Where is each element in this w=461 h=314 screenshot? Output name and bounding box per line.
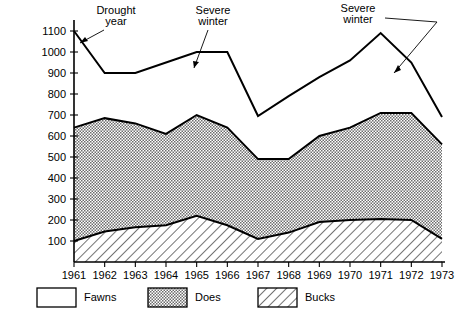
annotation-drought-year-line2: year <box>105 15 127 27</box>
y-axis-tick-labels: 10020030040050060070080090010001100 <box>42 25 66 247</box>
legend-label-does: Does <box>195 291 221 303</box>
y-axis-tick-label: 700 <box>48 109 66 121</box>
y-axis-tick-label: 300 <box>48 193 66 205</box>
legend-label-fawns: Fawns <box>84 291 117 303</box>
x-axis-tick-label: 1970 <box>338 269 362 281</box>
legend: Fawns Does Bucks <box>37 288 335 307</box>
legend-item-bucks[interactable]: Bucks <box>258 288 335 307</box>
stacked-area-chart: 10020030040050060070080090010001100 1961… <box>0 0 461 314</box>
legend-item-fawns[interactable]: Fawns <box>37 288 117 307</box>
annotation-severe-winter-1966-line2: winter <box>197 15 228 27</box>
y-axis-tick-label: 1000 <box>42 46 66 58</box>
y-axis-tick-label: 500 <box>48 151 66 163</box>
x-axis-tick-labels: 1961196219631964196519661967196819691970… <box>62 269 454 281</box>
y-axis-tick-label: 600 <box>48 130 66 142</box>
x-axis-tick-label: 1961 <box>62 269 86 281</box>
x-axis-tick-label: 1965 <box>184 269 208 281</box>
y-axis-tick-label: 200 <box>48 214 66 226</box>
y-axis-tick-label: 100 <box>48 235 66 247</box>
y-axis-tick-label: 800 <box>48 88 66 100</box>
annotation-severe-winter-1972-line2: winter <box>342 13 373 25</box>
x-axis-tick-label: 1967 <box>246 269 270 281</box>
x-axis-tick-label: 1971 <box>368 269 392 281</box>
x-axis-tick-label: 1968 <box>276 269 300 281</box>
legend-swatch-bucks <box>258 288 297 307</box>
x-axis-tick-label: 1969 <box>307 269 331 281</box>
y-axis-tick-label: 900 <box>48 67 66 79</box>
x-axis-tick-label: 1962 <box>92 269 116 281</box>
x-axis-tick-label: 1964 <box>154 269 178 281</box>
y-axis-tick-label: 400 <box>48 172 66 184</box>
legend-swatch-fawns <box>37 288 76 307</box>
y-axis-tick-label: 1100 <box>42 25 66 37</box>
chart-canvas: 10020030040050060070080090010001100 1961… <box>0 0 461 314</box>
x-axis-tick-label: 1972 <box>399 269 423 281</box>
legend-label-bucks: Bucks <box>305 291 335 303</box>
legend-item-does[interactable]: Does <box>148 288 221 307</box>
x-axis-tick-label: 1973 <box>430 269 454 281</box>
x-axis-tick-label: 1966 <box>215 269 239 281</box>
x-axis-tick-label: 1963 <box>123 269 147 281</box>
legend-swatch-does <box>148 288 187 307</box>
